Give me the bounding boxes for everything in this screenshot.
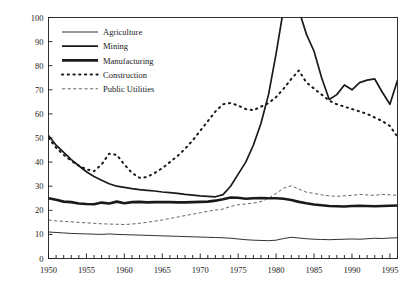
y-axis-tick-label: 30 (35, 181, 44, 191)
x-axis-tick-label: 1950 (40, 265, 57, 275)
chart-background (0, 0, 416, 291)
x-axis-tick-label: 1980 (268, 265, 285, 275)
y-axis-tick-label: 10 (35, 229, 44, 239)
x-axis-tick-label: 1955 (78, 265, 95, 275)
y-axis-tick-label: 90 (35, 37, 44, 47)
line-chart: 0102030405060708090100 19501955196019651… (0, 0, 416, 291)
y-axis-tick-label: 60 (35, 109, 44, 119)
y-axis-tick-label: 20 (35, 205, 44, 215)
x-axis-tick-label: 1960 (116, 265, 133, 275)
legend-label-construction: Construction (103, 70, 148, 80)
legend-label-mining: Mining (103, 41, 129, 51)
y-axis-tick-label: 50 (35, 133, 44, 143)
y-axis-tick-label: 100 (31, 13, 44, 23)
y-axis-tick-label: 80 (35, 61, 44, 71)
y-axis-tick-label: 70 (35, 85, 44, 95)
x-axis-tick-label: 1995 (381, 265, 398, 275)
x-axis-tick-label: 1965 (154, 265, 171, 275)
legend-label-public-utilities: Public Utilities (103, 84, 154, 94)
x-axis-tick-label: 1970 (192, 265, 209, 275)
y-axis-tick-label: 40 (35, 157, 44, 167)
chart-container: 0102030405060708090100 19501955196019651… (0, 0, 416, 291)
y-axis-tick-label: 0 (39, 254, 43, 264)
x-axis-tick-label: 1985 (306, 265, 323, 275)
x-axis-tick-label: 1975 (230, 265, 247, 275)
x-axis-tick-label: 1990 (343, 265, 360, 275)
legend-label-manufacturing: Manufacturing (103, 56, 154, 66)
legend-label-agriculture: Agriculture (103, 27, 142, 37)
